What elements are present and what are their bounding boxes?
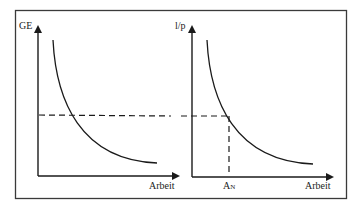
right-y-label: l/p [175, 20, 186, 31]
left-curve [53, 40, 157, 163]
right-x-label: Arbeit [305, 180, 331, 191]
marker-label-sub: N [230, 183, 235, 191]
left-y-label: GE [19, 20, 32, 31]
left-dashed-line [39, 115, 171, 116]
left-x-label: Arbeit [149, 180, 175, 191]
marker-label: AN [223, 180, 235, 191]
right-curve [207, 40, 313, 164]
outer-frame [16, 11, 347, 199]
